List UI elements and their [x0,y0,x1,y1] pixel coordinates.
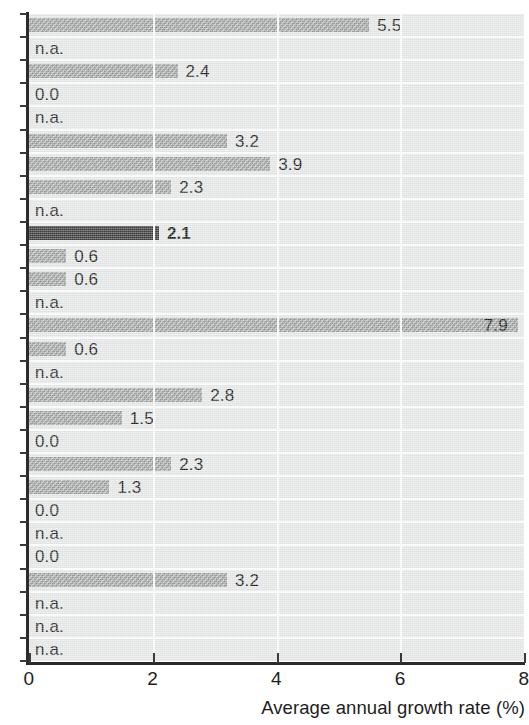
bar-value-na: n.a. [35,108,64,128]
bar [29,180,171,194]
bar-value-na: n.a. [35,594,64,614]
bar-value-label: 0.6 [74,340,98,360]
bar-value-na: n.a. [35,293,64,313]
y-axis-tick [20,129,27,131]
y-axis-tick [20,406,27,408]
y-axis-tick [20,475,27,477]
y-axis-tick [20,244,27,246]
y-axis-tick [20,568,27,570]
bar-value-label: 3.2 [235,132,259,152]
bar [29,480,109,494]
bar-value-zero: 0.0 [35,85,59,105]
bar-value-na: n.a. [35,39,64,59]
y-axis-tick [20,614,27,616]
y-axis-tick [20,59,27,61]
y-axis-tick [20,105,27,107]
plot-area: 5.5n.a.2.40.0n.a.3.23.92.3n.a.2.10.60.6n… [29,14,524,661]
y-axis-tick [20,198,27,200]
bar [29,157,270,171]
y-axis-tick [20,498,27,500]
x-axis-title: Average annual growth rate (%) [261,697,525,719]
x-axis-tick-label: 4 [271,668,282,690]
x-axis-tick-label: 6 [395,668,406,690]
bar-value-label: 3.2 [235,571,259,591]
x-axis-tick [153,653,155,663]
y-axis-tick [20,267,27,269]
bar-value-zero: 0.0 [35,547,59,567]
bar-value-label: 2.3 [179,178,203,198]
bar-value-na: n.a. [35,640,64,660]
y-axis-tick [20,175,27,177]
bar [29,342,66,356]
y-axis-tick [20,521,27,523]
bar-value-label: 2.3 [179,455,203,475]
bar [29,388,202,402]
y-axis-tick [20,429,27,431]
x-axis-tick [400,653,402,663]
bar-value-na: n.a. [35,617,64,637]
y-axis-tick [20,544,27,546]
x-axis-tick-label: 2 [147,668,158,690]
x-axis-tick-label: 0 [24,668,35,690]
x-axis-tick-label: 8 [519,668,529,690]
y-axis-tick [20,221,27,223]
bar [29,272,66,286]
bar [29,18,369,32]
bar-value-zero: 0.0 [35,501,59,521]
y-axis-tick [20,360,27,362]
x-axis-line [26,662,525,665]
bar [29,411,122,425]
gridline-x-2 [153,14,155,661]
bar-value-na: n.a. [35,201,64,221]
x-axis-tick [29,653,31,663]
gridline-x-4 [277,14,279,661]
y-axis-tick [20,290,27,292]
bar-value-label: 5.5 [377,16,401,36]
y-axis-tick [20,637,27,639]
bar [29,318,518,332]
bar-value-label: 3.9 [278,155,302,175]
y-axis-tick [20,660,27,662]
bar [29,457,171,471]
bar-value-na: n.a. [35,524,64,544]
bar [29,249,66,263]
bar [29,134,227,148]
x-axis-tick [277,653,279,663]
bar [29,64,178,78]
x-axis-tick [524,653,526,663]
y-axis-tick [20,452,27,454]
bar-value-label: 2.4 [186,62,210,82]
y-axis-tick [20,36,27,38]
gridline-x-6 [400,14,402,661]
y-axis-tick [20,82,27,84]
bar-value-label: 0.6 [74,247,98,267]
bar-value-zero: 0.0 [35,432,59,452]
bar-value-label: 2.1 [167,224,191,244]
bar-value-label: 2.8 [210,386,234,406]
bar-highlighted [29,226,159,240]
bar-value-label: 1.5 [130,409,154,429]
y-axis-tick [20,152,27,154]
bar-value-label: 0.6 [74,270,98,290]
y-axis-tick [20,337,27,339]
y-axis-tick [20,591,27,593]
y-axis-tick [20,383,27,385]
bar-value-label: 7.9 [484,316,508,336]
y-axis-tick [20,313,27,315]
y-axis-tick [20,13,27,15]
bar [29,573,227,587]
bar-value-na: n.a. [35,363,64,383]
bar-value-label: 1.3 [117,478,141,498]
